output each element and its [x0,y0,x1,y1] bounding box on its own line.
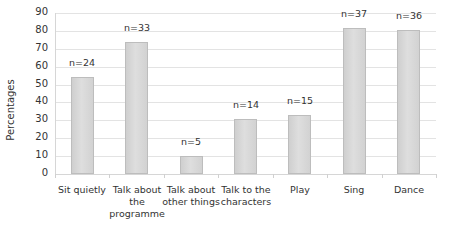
x-category-label-line: Sit quietly [52,184,112,196]
x-tick-mark [382,174,383,178]
gridline [55,49,436,50]
y-tick-label: 50 [24,78,48,89]
x-category-label-line: Talk about [161,184,221,196]
bar-count-label: n=37 [329,8,379,19]
y-tick-label: 20 [24,131,48,142]
bar [125,42,148,174]
gridline [55,67,436,68]
x-category-label-line: Dance [379,184,439,196]
bar [397,30,420,174]
x-category-label-line: Sing [324,184,384,196]
bar-chart: Percentages 0102030405060708090 n=24n=33… [0,0,449,233]
x-tick-mark [327,174,328,178]
y-tick-label: 40 [24,95,48,106]
x-category-label: Talk aboutother things [161,184,221,208]
y-axis-label: Percentages [5,70,19,150]
x-category-label-line: the [107,196,167,208]
y-tick-label: 60 [24,60,48,71]
x-category-label-line: Talk about [107,184,167,196]
bar [288,115,311,174]
bar [180,156,203,174]
x-category-label-line: other things [161,196,221,208]
bar-count-label: n=14 [221,99,271,110]
x-category-label: Sit quietly [52,184,112,196]
bar [71,77,94,174]
y-tick-label: 10 [24,149,48,160]
bar [234,119,257,174]
x-category-label-line: characters [216,196,276,208]
x-category-label: Talk to thecharacters [216,184,276,208]
x-category-label: Talk abouttheprogramme [107,184,167,220]
y-tick-label: 30 [24,113,48,124]
y-tick-label: 70 [24,42,48,53]
x-category-label-line: Play [270,184,330,196]
x-tick-mark [218,174,219,178]
x-category-label: Play [270,184,330,196]
y-axis-line [55,13,56,174]
x-category-label-line: programme [107,208,167,220]
x-axis-line [55,174,436,175]
gridline [55,85,436,86]
x-category-label: Dance [379,184,439,196]
bar-count-label: n=24 [57,57,107,68]
x-tick-mark [55,174,56,178]
bar [343,28,366,174]
bar-count-label: n=36 [384,10,434,21]
x-tick-mark [164,174,165,178]
x-tick-mark [109,174,110,178]
y-tick-label: 90 [24,6,48,17]
x-tick-mark [436,174,437,178]
y-tick-label: 80 [24,24,48,35]
bar-count-label: n=5 [166,136,216,147]
y-tick-label: 0 [24,167,48,178]
bar-count-label: n=15 [275,95,325,106]
x-category-label-line: Talk to the [216,184,276,196]
x-category-label: Sing [324,184,384,196]
bar-count-label: n=33 [112,22,162,33]
x-tick-mark [273,174,274,178]
